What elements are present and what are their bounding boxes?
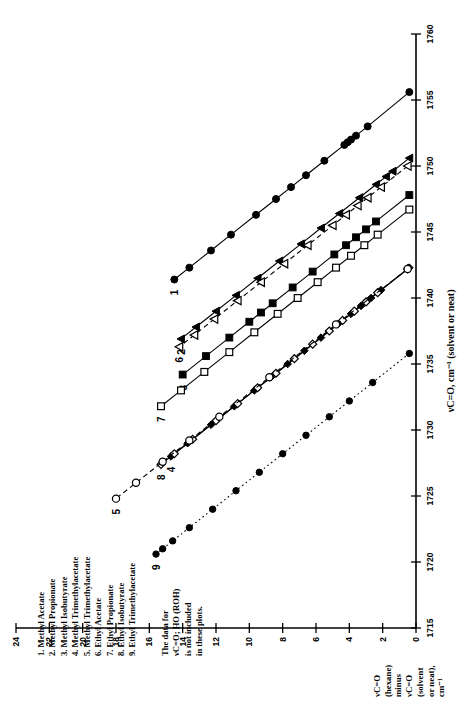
y-axis-label-line-6: or neat), (426, 665, 437, 697)
x-tick-label-1760: 1760 (425, 24, 435, 43)
data-point-9-3 (346, 398, 352, 404)
legend-item-6: 6. Ethyl Acetate (93, 557, 104, 656)
y-axis-label-line-4: νC=O (404, 665, 415, 697)
y-tick-label-24: 24 (11, 637, 21, 647)
data-point-9-5 (303, 432, 309, 438)
legend-note: The data forνC=O; HO (ROH)is not include… (160, 589, 206, 656)
note-line-3: is not included (183, 589, 194, 656)
data-point-5-7 (132, 479, 139, 486)
data-point-7-12 (178, 387, 185, 394)
data-point-7-7 (294, 295, 301, 302)
data-point-1-2 (364, 123, 371, 130)
data-point-5-4 (216, 413, 223, 420)
y-tick-label-6: 6 (311, 637, 321, 642)
data-point-7-5 (333, 264, 340, 271)
x-tick-label-1750: 1750 (425, 156, 435, 175)
series-1: 1 (169, 89, 413, 296)
curve-label-6: 6 (174, 357, 185, 363)
data-point-3-9 (269, 300, 276, 307)
curve-label-5: 5 (111, 508, 122, 514)
data-point-7-9 (251, 329, 258, 336)
data-point-7-2 (374, 231, 381, 238)
data-point-3-8 (289, 284, 296, 291)
data-point-7-3 (361, 242, 368, 249)
data-point-9-11 (169, 538, 175, 544)
x-tick-label-1730: 1730 (425, 420, 435, 439)
data-point-1-8 (303, 172, 310, 179)
curve-label-1: 1 (169, 289, 180, 295)
data-point-5-8 (112, 495, 119, 502)
curve-label-9: 9 (151, 564, 162, 570)
note-line-1: The data for (160, 589, 171, 656)
legend-item-5: 5. Methyl Trimethylacetate (82, 557, 93, 656)
data-point-1-15 (171, 276, 178, 283)
data-point-1-9 (288, 184, 295, 191)
data-point-5-5 (186, 437, 193, 444)
y-axis-label-line-7: cm⁻¹ (436, 665, 447, 697)
y-axis-label-line-2: (hexane) (383, 665, 394, 697)
data-point-9-7 (256, 469, 262, 475)
data-point-3-13 (203, 353, 210, 360)
x-tick-label-1720: 1720 (425, 552, 435, 571)
y-tick-label-12: 12 (211, 637, 221, 647)
curve-label-7: 7 (156, 416, 167, 422)
data-point-7-1 (406, 206, 413, 213)
data-point-3-7 (309, 268, 316, 275)
data-point-3-10 (258, 309, 265, 316)
curve-label-8: 8 (156, 474, 167, 480)
legend: 1. Methyl Acetate2. Methyl Propionate3. … (36, 557, 139, 656)
data-point-7-6 (314, 279, 321, 286)
data-point-9-12 (159, 546, 165, 552)
data-point-6-6 (328, 221, 336, 229)
data-point-5-1 (404, 265, 411, 272)
data-point-1-11 (253, 211, 260, 218)
legend-item-7: 7. Ethyl Propionate (105, 557, 116, 656)
y-tick-label-0: 0 (411, 637, 421, 642)
data-point-9-13 (153, 551, 159, 557)
x-tick-label-1735: 1735 (425, 354, 435, 373)
legend-item-2: 2. Methyl Propionate (47, 557, 58, 656)
note-line-4: in these plots. (194, 589, 205, 656)
data-point-1-13 (208, 247, 215, 254)
curve-label-4: 4 (166, 466, 177, 472)
data-point-1-6 (341, 141, 348, 148)
x-tick-label-1725: 1725 (425, 486, 435, 505)
data-point-1-1 (406, 89, 413, 96)
series-7: 7 (156, 206, 413, 422)
data-point-9-10 (186, 524, 192, 530)
series-line-8 (161, 269, 408, 464)
data-point-5-3 (266, 374, 273, 381)
data-point-7-4 (348, 252, 355, 259)
series-line-7 (161, 210, 409, 407)
data-point-5-2 (332, 321, 339, 328)
series-6: 6 (174, 162, 411, 363)
data-point-9-6 (279, 451, 285, 457)
x-tick-label-1740: 1740 (425, 288, 435, 307)
data-point-3-14 (179, 371, 186, 378)
y-axis-label-line-1: νC=O (372, 665, 383, 697)
data-point-1-14 (186, 264, 193, 271)
legend-item-9: 9. Ethyl Trimethylacetate (127, 557, 138, 656)
y-tick-label-4: 4 (344, 637, 354, 642)
y-axis-label-line-5: (solvent (415, 665, 426, 697)
y-tick-label-8: 8 (278, 637, 288, 642)
data-point-9-2 (369, 379, 375, 385)
data-point-9-8 (233, 488, 239, 494)
plot-wrapper: 1715172017251730173517401745175017551760… (0, 0, 470, 714)
data-point-9-9 (209, 506, 215, 512)
rotated-chart-canvas: 1715172017251730173517401745175017551760… (0, 0, 470, 714)
data-point-3-11 (246, 318, 253, 325)
data-point-9-4 (326, 414, 332, 420)
data-point-7-11 (201, 369, 208, 376)
y-axis-label: νC=O(hexane)minusνC=O(solventor neat),cm… (372, 665, 447, 697)
data-point-9-1 (406, 350, 412, 356)
data-point-7-13 (158, 403, 165, 410)
x-axis-title: νC=O, cm⁻¹ (solvent or neat) (445, 289, 457, 413)
data-point-3-4 (353, 234, 360, 241)
legend-item-4: 4. Methyl Trimethylacetate (70, 557, 81, 656)
x-tick-label-1715: 1715 (425, 618, 435, 637)
data-point-3-2 (373, 218, 380, 225)
data-point-3-3 (363, 226, 370, 233)
data-point-5-6 (159, 458, 166, 465)
y-tick-label-10: 10 (244, 637, 254, 647)
